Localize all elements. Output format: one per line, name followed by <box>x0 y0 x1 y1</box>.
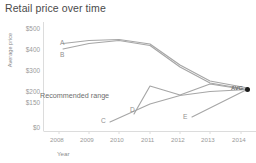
chart-container: Retail price over time Average price $50… <box>0 0 256 163</box>
series-line-a <box>63 40 248 89</box>
x-tick-2014: 2014 <box>232 136 246 143</box>
x-tick-2012: 2012 <box>171 136 185 143</box>
series-label-e: E <box>183 113 187 120</box>
series-label-b: B <box>60 51 64 58</box>
x-tick-2009: 2009 <box>80 136 94 143</box>
x-tick-2008: 2008 <box>50 136 64 143</box>
x-axis-title: Year <box>57 150 70 157</box>
x-tick-2010: 2010 <box>110 136 124 143</box>
plot-area <box>0 0 256 163</box>
recommended-range-label: Recommended range <box>40 91 109 100</box>
avg-marker-dot <box>245 87 250 92</box>
series-label-d: D <box>130 106 135 113</box>
x-tick-2013: 2013 <box>201 136 215 143</box>
series-label-c: C <box>101 117 106 124</box>
avg-label: AVG <box>231 85 243 91</box>
x-tick-2011: 2011 <box>141 136 154 143</box>
series-label-a: A <box>60 39 64 46</box>
